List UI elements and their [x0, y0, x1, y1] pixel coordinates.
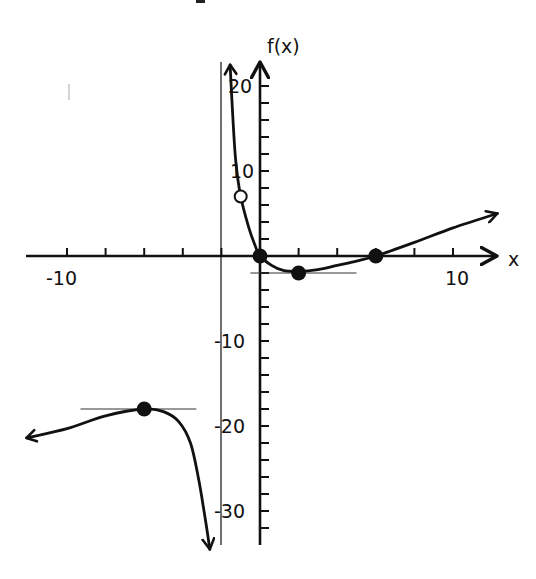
curve-right-branch [230, 65, 497, 272]
y-tick-label-neg20: -20 [214, 415, 245, 437]
cropped-text-fragment [196, 0, 205, 3]
closed-point [137, 402, 152, 417]
x-axis-title: x [508, 248, 519, 270]
closed-point [291, 266, 306, 281]
function-graph: f(x) x -10 10 20 10 -10 -20 -30 [0, 0, 536, 579]
open-point-hole [235, 191, 247, 203]
curve-left-branch [27, 409, 210, 550]
y-axis-title: f(x) [267, 35, 300, 57]
y-tick-label-neg10: -10 [214, 330, 245, 352]
y-tick-label-neg30: -30 [214, 500, 245, 522]
closed-point [253, 249, 268, 264]
y-tick-label-10: 10 [230, 160, 254, 182]
x-tick-label-neg10: -10 [46, 267, 77, 289]
y-axis [260, 62, 269, 545]
x-tick-label-10: 10 [445, 267, 469, 289]
closed-point [368, 249, 383, 264]
